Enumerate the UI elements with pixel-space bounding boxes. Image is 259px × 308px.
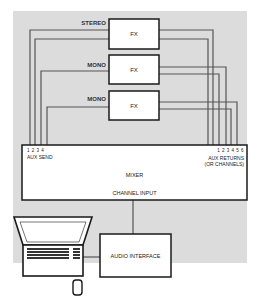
aux-return-numbers: 1 2 3 4 5 6	[217, 148, 244, 153]
fx-1-type-label: STEREO	[81, 20, 106, 26]
aux-send-label: AUX SEND	[27, 154, 53, 160]
fx-2-label: FX	[109, 67, 159, 73]
fx-1-label: FX	[109, 31, 159, 37]
fx-3-type-label: MONO	[87, 96, 106, 102]
fx-2-type-label: MONO	[87, 62, 106, 68]
fx-3-label: FX	[109, 103, 159, 109]
channel-input-label: CHANNEL INPUT	[22, 190, 247, 196]
audio-interface-label: AUDIO INTERFACE	[100, 253, 171, 259]
aux-return-sublabel: (OR CHANNELS)	[205, 161, 244, 167]
mixer-title: MIXER	[22, 172, 247, 178]
aux-send-numbers: 1 2 3 4	[27, 148, 44, 153]
label-layer: STEREO FX MONO FX MONO FX 1 2 3 4 AUX SE…	[0, 0, 259, 308]
